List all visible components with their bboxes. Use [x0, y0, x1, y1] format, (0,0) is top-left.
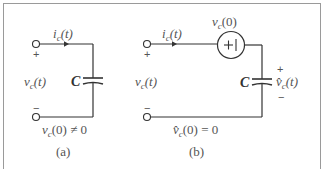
capacitor-label-b: C	[240, 75, 250, 90]
current-label-a: ic(t)	[53, 26, 73, 43]
plus-sign-b: +	[144, 48, 150, 60]
plus-sign-a: +	[33, 48, 39, 60]
terminal-top-icon	[144, 41, 151, 48]
circuit-diagram: ic(t) + vc(t) − C vc(0) ≠ 0 (a) vc(0) ic…	[0, 0, 325, 169]
source-label-b: vc(0)	[212, 14, 237, 31]
voltage-label-a: vc(t)	[24, 74, 46, 91]
voltage-label-b: vc(t)	[135, 74, 157, 91]
terminal-bottom-icon	[33, 114, 40, 121]
current-arrow-icon	[172, 41, 177, 47]
circuit-b: vc(0) ic(t) + vc(t) − C + v̂c(t) − v̂c(0…	[135, 14, 298, 159]
initial-condition-a: vc(0) ≠ 0	[42, 122, 87, 139]
current-arrow-icon	[64, 41, 69, 47]
minus-sign-b: −	[144, 102, 150, 114]
terminal-top-icon	[33, 41, 40, 48]
cap-voltage-label-b: v̂c(t)	[276, 74, 298, 91]
capacitor-label-a: C	[71, 74, 81, 89]
caption-b: (b)	[189, 144, 204, 159]
circuit-a: ic(t) + vc(t) − C vc(0) ≠ 0 (a)	[24, 26, 103, 159]
current-label-b: ic(t)	[162, 26, 182, 43]
cap-minus-sign-b: −	[278, 91, 284, 103]
terminal-bottom-icon	[144, 114, 151, 121]
minus-sign-a: −	[33, 102, 39, 114]
initial-condition-b: v̂c(0) = 0	[173, 122, 218, 139]
caption-a: (a)	[56, 144, 70, 159]
